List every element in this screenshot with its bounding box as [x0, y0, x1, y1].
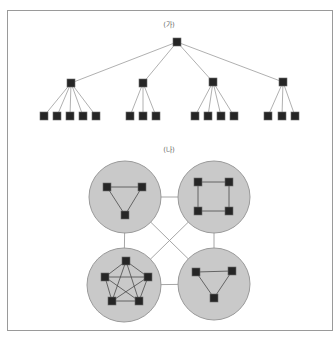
figure-frame — [8, 11, 333, 331]
cluster-node — [122, 257, 130, 265]
tree-leaf-node — [264, 112, 272, 120]
cluster-node — [194, 178, 202, 186]
c-bottom-left-cluster — [87, 248, 161, 322]
tree-leaf-node — [92, 112, 100, 120]
cluster-node — [192, 268, 200, 276]
cluster-node — [225, 178, 233, 186]
tree-leaf-node — [66, 112, 74, 120]
tree-leaf-node — [278, 112, 286, 120]
cluster-circle — [89, 161, 161, 233]
tree-leaf-node — [79, 112, 87, 120]
cluster-node — [135, 297, 143, 305]
cluster-node — [101, 273, 109, 281]
cluster-node — [194, 207, 202, 215]
cluster-node — [144, 273, 152, 281]
tree-leaf-node — [139, 112, 147, 120]
diagram-canvas: (가) (나) — [0, 0, 336, 338]
tree-leaf-node — [204, 112, 212, 120]
cluster-node — [225, 207, 233, 215]
tree-leaf-node — [152, 112, 160, 120]
tree-leaf-node — [53, 112, 61, 120]
tree-branch-node — [67, 79, 75, 87]
cluster-node — [228, 267, 236, 275]
c-top-left-cluster — [89, 161, 161, 233]
tree-leaf-node — [126, 112, 134, 120]
tree-branch-node — [139, 79, 147, 87]
c-bottom-right-cluster — [178, 248, 250, 320]
tree-leaf-node — [191, 112, 199, 120]
cluster-node — [108, 297, 116, 305]
tree-leaf-node — [230, 112, 238, 120]
cluster-node — [103, 183, 111, 191]
cluster-node — [138, 183, 146, 191]
cluster-circle — [178, 248, 250, 320]
cluster-panel-label: (나) — [163, 145, 175, 154]
cluster-node — [210, 294, 218, 302]
tree-leaf-node — [291, 112, 299, 120]
c-top-right-cluster — [178, 161, 250, 233]
tree-leaf-node — [40, 112, 48, 120]
cluster-circle — [178, 161, 250, 233]
tree-branch-node — [279, 78, 287, 86]
tree-leaf-node — [217, 112, 225, 120]
tree-root-node — [173, 38, 181, 46]
cluster-node — [121, 211, 129, 219]
tree-panel-label: (가) — [163, 20, 175, 29]
tree-branch-node — [209, 78, 217, 86]
